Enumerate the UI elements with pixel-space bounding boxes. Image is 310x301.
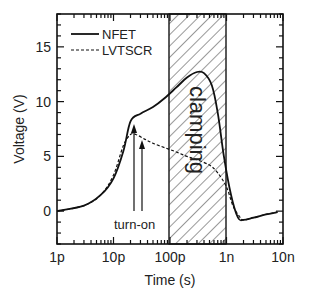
y-tick-label: 10	[35, 94, 51, 110]
chart-figure: 1p10p100p1n10n051015 clamping NFET LVTSC…	[0, 0, 310, 301]
clamping-label: clamping	[185, 86, 210, 174]
series-nfet	[57, 71, 278, 220]
legend-lvtscr-label: LVTSCR	[102, 43, 152, 58]
turn-on-annotation: turn-on	[114, 124, 155, 232]
y-axis-title: Voltage (V)	[11, 94, 27, 163]
x-tick-label: 10p	[102, 249, 126, 265]
x-tick-label: 10n	[271, 249, 294, 265]
y-tick-label: 0	[43, 203, 51, 219]
y-tick-label: 15	[35, 39, 51, 55]
x-axis-title: Time (s)	[145, 272, 196, 288]
turn-on-label: turn-on	[114, 217, 155, 232]
series-lvtscr	[57, 133, 278, 219]
arrowhead-icon	[139, 140, 145, 149]
y-tick-label: 5	[43, 148, 51, 164]
x-tick-label: 100p	[154, 249, 185, 265]
x-tick-label: 1n	[219, 249, 235, 265]
x-tick-label: 1p	[49, 249, 65, 265]
legend-nfet-label: NFET	[102, 27, 136, 42]
legend: NFET LVTSCR	[71, 27, 152, 58]
arrowhead-icon	[131, 124, 137, 133]
